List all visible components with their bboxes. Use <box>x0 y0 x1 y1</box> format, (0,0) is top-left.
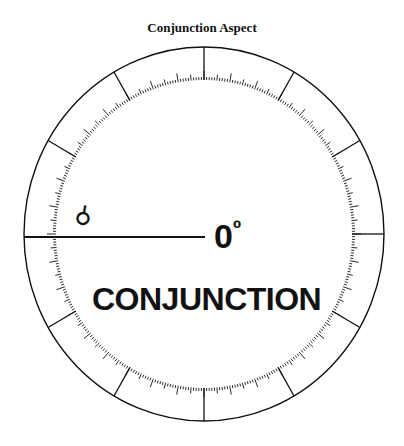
angle-label: 0º <box>214 219 241 253</box>
aspect-dial <box>0 0 404 446</box>
outer-circle <box>24 47 384 421</box>
aspect-name: CONJUNCTION <box>92 283 321 315</box>
angle-unit: º <box>233 216 241 241</box>
degree-ticks <box>47 71 361 397</box>
angle-value: 0 <box>214 217 233 255</box>
